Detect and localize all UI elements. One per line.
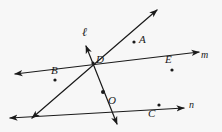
lines-group <box>10 10 199 124</box>
geometry-figure: A B C D E O ℓ m n <box>0 0 222 132</box>
point-label-A: A <box>139 34 146 45</box>
point-label-B: B <box>51 65 58 76</box>
line-label-m: m <box>201 50 208 60</box>
line-n <box>10 108 184 118</box>
dot-A <box>132 40 135 43</box>
dot-C <box>157 103 160 106</box>
line-label-ell: ℓ <box>82 26 87 38</box>
dot-O <box>101 90 105 94</box>
dot-E <box>170 68 173 71</box>
figure-canvas <box>0 0 222 132</box>
point-label-C: C <box>148 108 155 119</box>
dot-B <box>53 78 56 81</box>
point-label-D: D <box>96 54 104 65</box>
point-label-E: E <box>165 54 172 65</box>
line-label-n: n <box>189 100 194 110</box>
point-label-O: O <box>108 95 116 106</box>
dot-D <box>91 61 94 64</box>
